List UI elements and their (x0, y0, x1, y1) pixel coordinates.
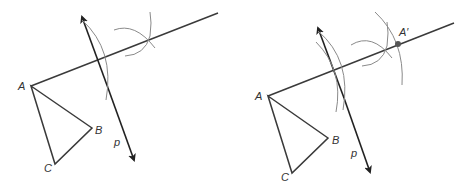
label-b: B (95, 124, 102, 136)
line-p-arrow-down (344, 98, 370, 172)
right-panel: A′ A B C p (254, 12, 454, 183)
line-p-arrow-down (108, 88, 134, 160)
label-c: C (281, 171, 289, 183)
label-p: p (350, 147, 357, 159)
compass-arc-1 (82, 20, 108, 100)
label-c: C (44, 162, 52, 174)
reflection-construction-diagram: A B C p A′ A B C p (0, 0, 469, 195)
triangle-abc (268, 96, 328, 173)
label-b: B (332, 134, 339, 146)
compass-arc-3 (362, 22, 388, 66)
ray-from-a (31, 13, 218, 86)
label-a-prime: A′ (398, 26, 409, 38)
label-a: A (254, 90, 262, 102)
ray-from-a (268, 23, 454, 96)
label-p: p (113, 136, 120, 148)
label-a: A (17, 80, 25, 92)
triangle-abc (31, 86, 92, 164)
point-a-prime (395, 41, 401, 47)
left-panel: A B C p (17, 12, 218, 174)
compass-arc-3 (125, 12, 151, 56)
